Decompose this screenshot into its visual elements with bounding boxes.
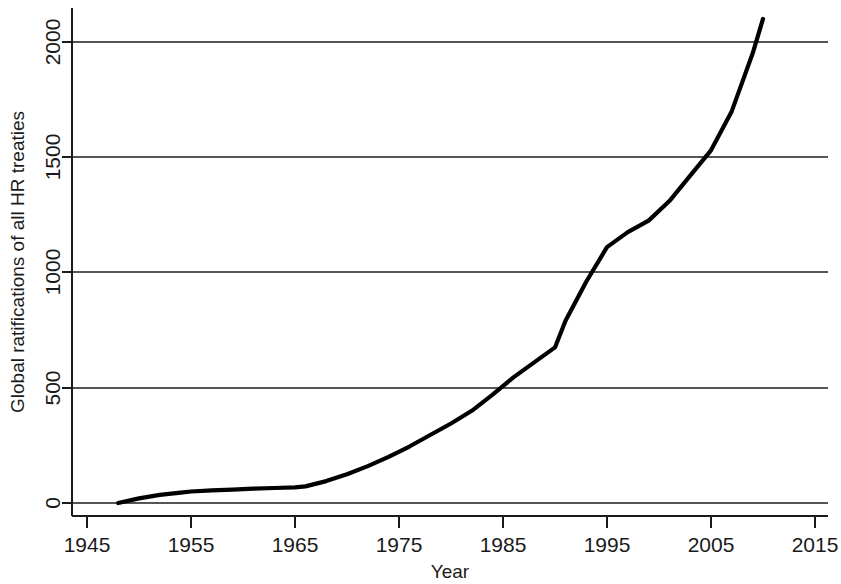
y-tick-label-500: 500 bbox=[41, 370, 64, 405]
x-tick-label-2015: 2015 bbox=[792, 533, 839, 556]
x-axis: 1945 1955 1965 1975 1985 1995 2005 2015 bbox=[64, 516, 839, 556]
x-tick-label-1955: 1955 bbox=[168, 533, 215, 556]
chart-figure: 2000 1500 1000 500 0 1945 1955 1965 1975… bbox=[0, 0, 841, 584]
y-tick-label-1500: 1500 bbox=[41, 134, 64, 181]
x-tick-label-1985: 1985 bbox=[480, 533, 527, 556]
x-axis-title: Year bbox=[431, 561, 470, 582]
y-axis: 2000 1500 1000 500 0 bbox=[41, 8, 73, 516]
line-chart: 2000 1500 1000 500 0 1945 1955 1965 1975… bbox=[0, 0, 841, 584]
series-line-ratifications bbox=[118, 19, 763, 503]
x-tick-label-1945: 1945 bbox=[64, 533, 111, 556]
y-tick-label-1000: 1000 bbox=[41, 249, 64, 296]
y-tick-label-0: 0 bbox=[41, 497, 64, 509]
y-tick-label-2000: 2000 bbox=[41, 19, 64, 66]
x-tick-label-1995: 1995 bbox=[584, 533, 631, 556]
x-tick-label-1965: 1965 bbox=[272, 533, 319, 556]
gridlines bbox=[72, 42, 828, 503]
x-tick-label-2005: 2005 bbox=[688, 533, 735, 556]
y-axis-title: Global ratifications of all HR treaties bbox=[7, 111, 28, 413]
x-tick-label-1975: 1975 bbox=[376, 533, 423, 556]
